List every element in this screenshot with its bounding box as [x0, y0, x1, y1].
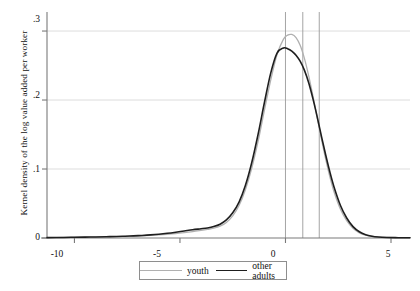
legend-item-other-adults: other adults: [216, 261, 286, 281]
chart-legend: youth other adults: [139, 261, 287, 280]
series-line-other_adults: [47, 48, 410, 238]
plot-area: [0, 0, 420, 291]
legend-swatch-other-adults: [216, 270, 248, 271]
series-line-youth: [47, 34, 410, 237]
legend-label-youth: youth: [187, 266, 209, 276]
legend-label-other-adults: other adults: [252, 261, 286, 281]
legend-item-youth: youth: [140, 266, 209, 276]
kernel-density-chart: Kernel density of the log value added pe…: [0, 0, 420, 291]
legend-swatch-youth: [140, 270, 182, 271]
